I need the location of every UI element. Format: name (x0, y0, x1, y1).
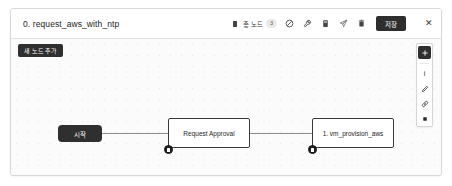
connection-handle-approval[interactable] (164, 145, 173, 154)
node-request-approval[interactable]: Request Approval (168, 118, 250, 148)
canvas-side-toolbar: i (416, 43, 433, 127)
header-toolbar: 총 노드 3 (229, 16, 435, 31)
edge-approval-to-provision (250, 133, 312, 134)
add-node-icon[interactable] (418, 46, 431, 59)
page-title: 0. request_aws_with_ntp (23, 19, 119, 29)
wrench-icon[interactable] (302, 18, 313, 29)
stop-icon[interactable] (419, 113, 430, 124)
node-start[interactable]: 시작 (58, 125, 102, 142)
edge-start-to-approval (102, 133, 168, 134)
send-icon[interactable] (338, 18, 349, 29)
block-circle-icon[interactable] (284, 18, 295, 29)
node-stack-icon (229, 18, 240, 29)
save-button[interactable]: 저장 (376, 16, 406, 31)
link-icon[interactable] (419, 98, 430, 109)
connection-handle-provision[interactable] (308, 145, 317, 154)
workflow-canvas[interactable]: 새 노드 추가 시작 Request Approval 1. vm_provis… (11, 39, 441, 175)
node-count-label: 총 노드 (243, 19, 263, 29)
add-node-button[interactable]: 새 노드 추가 (18, 44, 63, 57)
trash-icon[interactable] (356, 18, 367, 29)
node-vm-provision-aws-label: 1. vm_provision_aws (323, 130, 384, 137)
node-request-approval-label: Request Approval (183, 130, 234, 137)
node-vm-provision-aws[interactable]: 1. vm_provision_aws (312, 118, 394, 148)
window-header: 0. request_aws_with_ntp 총 노드 3 (11, 9, 441, 39)
pencil-icon[interactable] (419, 83, 430, 94)
toolbar-divider (420, 63, 429, 64)
node-count-badge: 3 (266, 19, 277, 28)
workflow-editor-window: 0. request_aws_with_ntp 총 노드 3 (10, 8, 442, 176)
document-icon[interactable] (320, 18, 331, 29)
close-icon[interactable]: ✕ (422, 17, 435, 30)
info-icon[interactable]: i (419, 68, 430, 79)
node-start-label: 시작 (74, 129, 86, 139)
node-count-group: 총 노드 3 (229, 18, 277, 29)
